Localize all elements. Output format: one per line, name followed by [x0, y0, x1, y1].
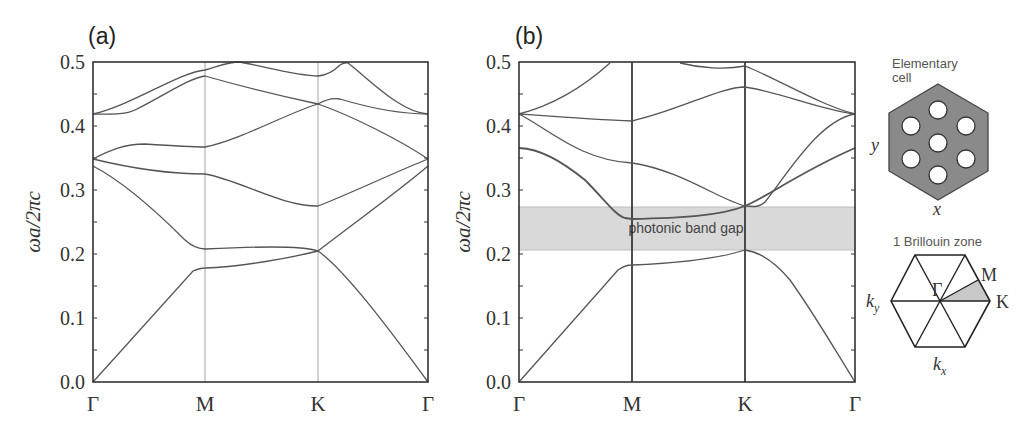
ytick-b-0.0: 0.0	[486, 371, 511, 393]
ytick-0.1: 0.1	[60, 307, 85, 329]
bz-m: M	[981, 265, 997, 285]
cell-title-line1: Elementary	[892, 56, 958, 71]
bz-gamma: Γ	[932, 280, 942, 300]
panel-a-ylabel: ωa/2πc	[21, 191, 45, 253]
panel-a: (a) ωa/2πc 0.0 0.1 0.2 0.3 0.4 0.5 Γ M K…	[21, 23, 434, 416]
xtick-m: M	[196, 392, 215, 416]
ytick-b-0.2: 0.2	[486, 243, 511, 265]
xtick-b-k: K	[737, 392, 752, 416]
band-a-3	[93, 159, 428, 206]
ytick-b-0.5: 0.5	[486, 51, 511, 73]
ytick-0.4: 0.4	[60, 115, 85, 137]
xtick-b-gamma-1: Γ	[513, 392, 525, 416]
hole	[902, 117, 920, 135]
hole	[957, 150, 975, 168]
xtick-b-m: M	[623, 392, 642, 416]
panel-a-label: (a)	[88, 23, 116, 49]
ytick-0.3: 0.3	[60, 179, 85, 201]
cell-axis-y: y	[869, 135, 879, 155]
panel-b: (b) ωa/2πc 0.0 0.1 0.2 0.3 0.4 0.5 Γ M K…	[451, 23, 861, 416]
bz-ky: ky	[866, 291, 880, 315]
xtick-b-gamma-2: Γ	[849, 392, 861, 416]
brillouin-zone-inset: 1 Brillouin zone Γ M K ky kx	[866, 234, 1009, 378]
ytick-0.5: 0.5	[60, 51, 85, 73]
figure-canvas: (a) ωa/2πc 0.0 0.1 0.2 0.3 0.4 0.5 Γ M K…	[0, 0, 1028, 427]
panel-a-frame	[93, 62, 428, 382]
band-a-2	[93, 166, 428, 251]
elementary-cell-inset: Elementary cell y x	[869, 56, 988, 219]
band-a-1	[93, 251, 428, 382]
bz-title: 1 Brillouin zone	[893, 234, 982, 249]
band-a-4	[93, 104, 428, 159]
ytick-0.0: 0.0	[60, 371, 85, 393]
xtick-gamma-1: Γ	[87, 392, 99, 416]
cell-title-line2: cell	[892, 70, 912, 85]
band-b-1	[519, 250, 855, 382]
ytick-b-0.3: 0.3	[486, 179, 511, 201]
xtick-gamma-2: Γ	[422, 392, 434, 416]
band-gap-label: photonic band gap	[628, 220, 743, 236]
ytick-0.2: 0.2	[60, 243, 85, 265]
cell-axis-x: x	[932, 199, 941, 219]
bz-diagonals	[891, 255, 990, 347]
panel-b-ylabel: ωa/2πc	[451, 191, 475, 253]
hole	[929, 101, 947, 119]
hole	[902, 150, 920, 168]
hole	[929, 166, 947, 184]
band-b-4	[519, 87, 855, 121]
bz-kx: kx	[933, 354, 947, 378]
ticks-a	[93, 94, 428, 350]
band-b-5	[519, 63, 855, 114]
hole	[929, 134, 947, 152]
xtick-k: K	[310, 392, 325, 416]
bands-a	[93, 62, 428, 382]
ytick-b-0.4: 0.4	[486, 115, 511, 137]
band-b-3	[519, 114, 855, 207]
bz-k: K	[996, 292, 1009, 312]
hole	[957, 117, 975, 135]
panel-b-label: (b)	[515, 23, 543, 49]
ytick-b-0.1: 0.1	[486, 307, 511, 329]
